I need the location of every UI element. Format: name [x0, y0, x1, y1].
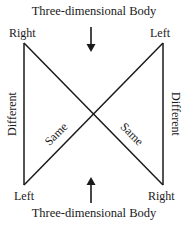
top-title: Three-dimensional Body: [0, 4, 188, 18]
corner-label-top-left: Right: [9, 26, 36, 40]
bottom-title: Three-dimensional Body: [0, 206, 188, 220]
corner-label-top-right: Left: [150, 26, 170, 40]
side-label-left: Different: [5, 88, 19, 140]
corner-label-bottom-left: Left: [14, 189, 34, 203]
side-label-right: Different: [169, 88, 183, 140]
arrow-down-icon: [87, 27, 96, 52]
corner-label-bottom-right: Right: [148, 189, 175, 203]
arrow-up-icon: [87, 177, 96, 203]
